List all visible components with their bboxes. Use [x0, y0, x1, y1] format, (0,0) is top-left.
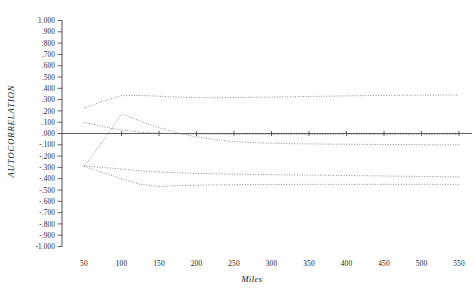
y-tick-label: .000: [42, 130, 55, 138]
y-tick-label: -.600: [39, 198, 55, 206]
x-tick-label: 400: [341, 259, 353, 268]
y-tick-label: .400: [42, 85, 55, 93]
x-tick-label: 250: [228, 259, 240, 268]
y-tick-label: .900: [42, 28, 55, 36]
y-tick-label: -.700: [39, 209, 55, 217]
x-tick-label: 50: [80, 259, 88, 268]
y-tick-label: .700: [42, 51, 55, 59]
y-tick-label: -.100: [39, 141, 55, 149]
y-tick-label: -.800: [39, 221, 55, 229]
y-tick-label: .800: [42, 40, 55, 48]
y-tick-label: .600: [42, 62, 55, 70]
y-tick-label: .300: [42, 96, 55, 104]
y-axis-title: AUTOCORRELATION: [6, 84, 16, 178]
x-tick-label: 500: [416, 259, 428, 268]
x-tick-label: 350: [303, 259, 315, 268]
y-tick-label: -.300: [39, 164, 55, 172]
y-tick-label: -1.000: [36, 243, 56, 251]
y-tick-label: -.500: [39, 187, 55, 195]
y-tick-label: -.400: [39, 175, 55, 183]
x-tick-label: 200: [191, 259, 203, 268]
x-tick-label: 300: [266, 259, 278, 268]
x-axis-title: Miles: [240, 274, 262, 284]
autocorrelation-chart: 1.000.900.800.700.600.500.400.300.200.10…: [0, 0, 475, 290]
x-tick-label: 100: [116, 259, 128, 268]
x-tick-label: 450: [378, 259, 390, 268]
y-tick-label: -.200: [39, 153, 55, 161]
y-tick-label: 1.000: [38, 17, 55, 25]
y-tick-label: .200: [42, 108, 55, 116]
x-tick-label: 550: [453, 259, 465, 268]
y-tick-label: -.900: [39, 232, 55, 240]
chart-canvas: 1.000.900.800.700.600.500.400.300.200.10…: [0, 0, 475, 290]
x-tick-label: 150: [153, 259, 165, 268]
y-tick-label: .500: [42, 74, 55, 82]
y-tick-label: .100: [42, 119, 55, 127]
